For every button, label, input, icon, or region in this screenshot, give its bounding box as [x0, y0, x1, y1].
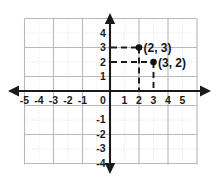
point-label-2-3: (2, 3) [144, 41, 172, 55]
origin-label: 0 [100, 94, 106, 106]
y-tick-label--3: -3 [96, 142, 105, 154]
y-tick-label-2: 2 [100, 56, 106, 68]
y-tick-label--1: -1 [96, 113, 105, 125]
data-point-3-2[interactable] [150, 59, 157, 66]
y-tick-label-4: 4 [100, 27, 106, 39]
x-tick-label--2: -2 [63, 94, 72, 106]
y-tick-label--4: -4 [96, 157, 105, 169]
x-tick-label-5: 5 [180, 94, 186, 106]
x-tick-label--3: -3 [49, 94, 58, 106]
point-label-3-2: (3, 2) [158, 56, 186, 70]
x-tick-label-3: 3 [151, 94, 157, 106]
coordinate-plane-figure: -5 -4 -3 -2 -1 1 2 3 4 5 0 4 3 2 1 -1 -2… [0, 0, 219, 180]
x-tick-label--4: -4 [34, 94, 43, 106]
data-point-2-3[interactable] [136, 44, 143, 51]
x-tick-label-2: 2 [136, 94, 142, 106]
x-tick-label--1: -1 [78, 94, 87, 106]
x-tick-label-1: 1 [122, 94, 128, 106]
y-tick-label-3: 3 [100, 41, 106, 53]
coordinate-plane-screenshot: -5 -4 -3 -2 -1 1 2 3 4 5 0 4 3 2 1 -1 -2… [0, 0, 219, 180]
y-tick-label-1: 1 [100, 70, 106, 82]
x-tick-label-4: 4 [165, 94, 171, 106]
y-tick-label--2: -2 [96, 128, 105, 140]
x-tick-label--5: -5 [20, 94, 29, 106]
